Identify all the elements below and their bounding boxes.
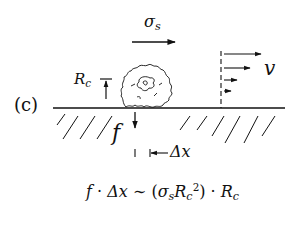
shear-stress-symbol: σ: [144, 12, 155, 31]
force-label: f: [112, 122, 120, 144]
particle-cluster: [121, 64, 172, 107]
eq-radius-2: R: [221, 182, 233, 201]
eq-sim: ∼: [133, 182, 146, 201]
left-hatching: [57, 114, 112, 139]
radius-subscript: c: [85, 77, 91, 89]
eq-sigma: σ: [158, 182, 169, 201]
radius-marker: [100, 79, 112, 99]
eq-radius: R: [174, 182, 186, 201]
eq-dot-2: ·: [211, 182, 216, 201]
panel-label: (c): [14, 96, 38, 114]
eq-dot: ·: [97, 182, 102, 201]
displacement-label: Δx: [170, 144, 191, 160]
eq-radius-2-sub: c: [233, 190, 239, 203]
displacement-marker: [135, 149, 168, 157]
shear-stress-subscript: s: [155, 20, 161, 33]
velocity-label: v: [264, 58, 275, 78]
eq-displacement: Δx: [107, 182, 128, 201]
eq-close-paren: ): [199, 182, 205, 201]
scaling-equation: f · Δx ∼ (σsRc2) · Rc: [86, 182, 239, 202]
shear-stress-label: σs: [144, 14, 161, 32]
radius-label: Rc: [74, 72, 91, 88]
eq-force: f: [86, 182, 92, 201]
right-hatching: [180, 116, 275, 143]
radius-symbol: R: [74, 70, 85, 88]
velocity-profile: [221, 51, 261, 108]
